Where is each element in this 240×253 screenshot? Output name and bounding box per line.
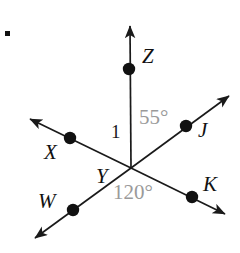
ray-y-to-z	[130, 26, 131, 168]
point-dot-j	[180, 120, 192, 132]
diagram-canvas: Z J X W K Y 1 55° 120°	[0, 0, 240, 253]
point-label-k: K	[203, 174, 217, 195]
point-label-z: Z	[142, 46, 154, 67]
point-label-y: Y	[96, 166, 108, 187]
point-dot-w	[67, 204, 79, 216]
angle-label-55-degrees: 55°	[139, 107, 168, 128]
point-label-w: W	[38, 191, 56, 212]
angle-label-1: 1	[111, 122, 121, 141]
point-dot-z	[123, 63, 135, 75]
point-label-j: J	[198, 120, 207, 141]
point-dot-x	[64, 132, 76, 144]
angle-label-120-degrees: 120°	[113, 182, 153, 203]
point-label-x: X	[44, 142, 57, 163]
point-dot-k	[186, 191, 198, 203]
